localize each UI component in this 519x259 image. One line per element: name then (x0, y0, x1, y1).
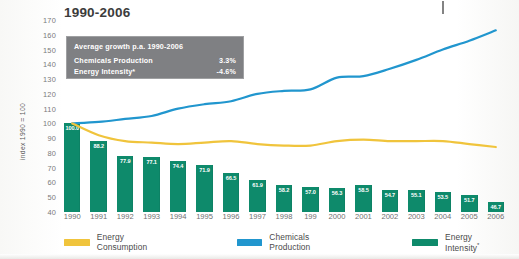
y-axis: 170160150140130120110100908070605040 (28, 20, 56, 212)
y-tick-90: 90 (28, 134, 56, 143)
x-tick-1990: 1990 (64, 212, 81, 221)
x-tick-2006: 2006 (487, 212, 504, 221)
y-tick-100: 100 (28, 119, 56, 128)
x-tick-1998: 1998 (276, 212, 293, 221)
page-bottom-edge (0, 254, 519, 259)
y-tick-70: 70 (28, 163, 56, 172)
x-tick-1992: 1992 (117, 212, 134, 221)
legend-label: Energy Consumption (97, 232, 171, 252)
y-tick-120: 120 (28, 89, 56, 98)
footnote-marker: * (477, 242, 479, 248)
legend-item-energy-intensity[interactable]: Energy Intensity* (412, 232, 504, 253)
legend-swatch-icon (412, 239, 438, 246)
y-tick-110: 110 (28, 104, 56, 113)
chart-container: 1990-2006 index 1990 = 100 1701601501401… (0, 0, 519, 259)
y-tick-140: 140 (28, 60, 56, 69)
x-tick-2000: 2000 (328, 212, 345, 221)
callout-box: Average growth p.a. 1990-2006 Chemicals … (66, 36, 244, 79)
scan-artifact-mark (442, 1, 444, 14)
x-tick-1997: 1997 (249, 212, 266, 221)
callout-heading-row: Average growth p.a. 1990-2006 (66, 36, 244, 53)
legend-swatch-icon (64, 239, 90, 246)
callout-row-energy-intensity: Energy Intensity* -4.6% (66, 65, 244, 77)
chart-legend: Energy ConsumptionChemicals ProductionEn… (64, 236, 504, 248)
y-tick-60: 60 (28, 178, 56, 187)
y-tick-50: 50 (28, 193, 56, 202)
y-tick-170: 170 (28, 16, 56, 25)
x-tick-199: 199 (304, 212, 317, 221)
callout-value-energy-intensity: -4.6% (202, 67, 236, 76)
x-tick-1994: 1994 (170, 212, 187, 221)
y-tick-160: 160 (28, 30, 56, 39)
x-tick-1996: 1996 (223, 212, 240, 221)
callout-value-chemicals: 3.3% (202, 56, 236, 65)
x-tick-1991: 1991 (90, 212, 107, 221)
x-tick-1993: 1993 (143, 212, 160, 221)
chart-title: 1990-2006 (64, 5, 130, 20)
legend-item-energy-consumption[interactable]: Energy Consumption (64, 232, 171, 252)
x-tick-2004: 2004 (434, 212, 451, 221)
y-tick-80: 80 (28, 148, 56, 157)
y-axis-label: index 1990 = 100 (19, 97, 26, 167)
callout-label-chemicals: Chemicals Production (74, 56, 153, 65)
line-energy-consumption (72, 123, 496, 147)
x-axis: 1990199119921993199419951996199719981992… (59, 212, 509, 226)
x-tick-2005: 2005 (461, 212, 478, 221)
x-tick-1995: 1995 (196, 212, 213, 221)
callout-label-energy-intensity: Energy Intensity* (74, 67, 135, 76)
legend-label: Chemicals Production (269, 232, 346, 252)
legend-label: Energy Intensity* (445, 232, 504, 253)
callout-row-chemicals: Chemicals Production 3.3% (66, 53, 244, 65)
y-tick-40: 40 (28, 208, 56, 217)
callout-heading: Average growth p.a. 1990-2006 (74, 42, 183, 51)
x-tick-2001: 2001 (355, 212, 372, 221)
y-tick-130: 130 (28, 75, 56, 84)
x-tick-2003: 2003 (408, 212, 425, 221)
legend-swatch-icon (237, 239, 263, 246)
legend-item-chemicals-production[interactable]: Chemicals Production (237, 232, 347, 252)
y-tick-150: 150 (28, 45, 56, 54)
x-tick-2002: 2002 (381, 212, 398, 221)
